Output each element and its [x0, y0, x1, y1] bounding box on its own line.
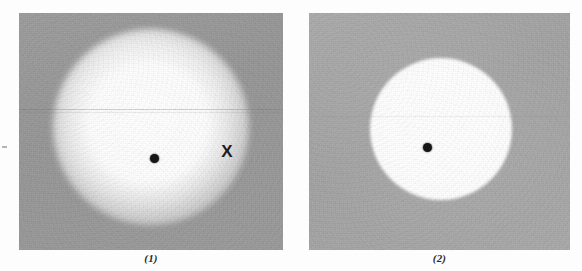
halo-core-1	[84, 61, 212, 187]
photographic-plate-2	[309, 13, 570, 250]
panel-1-caption: (1)	[19, 252, 283, 264]
center-dot-marker-2	[423, 143, 432, 152]
figure-container: X (1) (2)	[0, 0, 582, 271]
bright-disk-2	[370, 58, 512, 200]
panel-2-caption: (2)	[309, 252, 570, 264]
figure-panel-2: (2)	[291, 0, 582, 271]
center-dot-marker-1	[150, 154, 159, 163]
x-position-marker: X	[217, 141, 237, 163]
figure-panel-1: X (1)	[0, 0, 291, 271]
photographic-plate-1: X	[19, 13, 283, 250]
